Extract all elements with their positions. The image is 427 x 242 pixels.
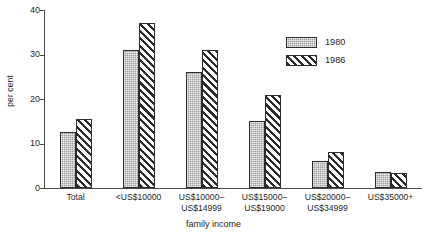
bar-1986[interactable] xyxy=(139,23,155,188)
y-tick-label: 20 xyxy=(18,95,40,104)
bar-1986[interactable] xyxy=(391,173,407,188)
y-tick-mark xyxy=(40,188,44,189)
plot-area xyxy=(44,10,422,188)
bar-1980[interactable] xyxy=(60,132,76,189)
legend-label-1986: 1986 xyxy=(325,55,345,66)
bar-1980[interactable] xyxy=(249,121,265,188)
bar-1980[interactable] xyxy=(123,50,139,188)
bar-group xyxy=(60,10,92,188)
legend-label-1980: 1980 xyxy=(325,37,345,48)
bar-group xyxy=(249,10,281,188)
legend-swatch-1986 xyxy=(286,55,317,66)
bar-1986[interactable] xyxy=(328,152,344,188)
legend-swatch-1980 xyxy=(286,37,317,48)
x-axis-title: family income xyxy=(0,219,427,229)
bar-1980[interactable] xyxy=(312,161,328,188)
bar-group xyxy=(186,10,218,188)
y-tick-label: 10 xyxy=(18,139,40,148)
y-tick-label: 0 xyxy=(18,184,40,193)
y-axis-title: per cent xyxy=(5,61,15,121)
bar-1986[interactable] xyxy=(202,50,218,188)
bar-1986[interactable] xyxy=(76,119,92,188)
bar-1980[interactable] xyxy=(186,72,202,188)
bar-1986[interactable] xyxy=(265,95,281,188)
bar-group xyxy=(123,10,155,188)
bar-chart: per cent 010203040 Total<US$10000US$1000… xyxy=(0,0,427,242)
y-tick-label: 40 xyxy=(18,6,40,15)
bar-group xyxy=(375,10,407,188)
bar-1980[interactable] xyxy=(375,172,391,188)
x-tick-label: US$35000+ xyxy=(353,192,427,203)
y-tick-label: 30 xyxy=(18,50,40,59)
x-axis-line xyxy=(44,188,422,189)
